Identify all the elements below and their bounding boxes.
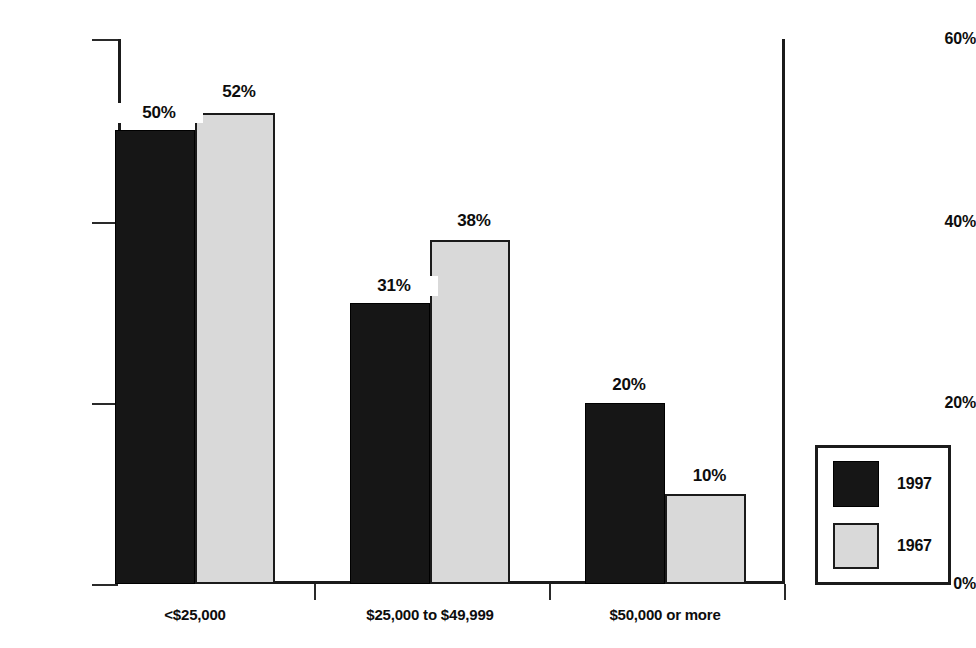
x-axis-label-25000-49999: $25,000 to $49,999 [330, 606, 530, 623]
bar-1967-lt-25000 [195, 113, 275, 584]
bar-value-1997-50000-plus: 20% [585, 375, 673, 395]
bar-1967-50000-plus [665, 494, 746, 584]
legend-swatch-1967 [833, 523, 879, 569]
x-tick-0 [314, 584, 316, 600]
legend: 1997 1967 [815, 445, 951, 585]
scan-text-remnant: · · · · · · · [0, 0, 976, 12]
bar-1997-25000-49999 [350, 303, 430, 584]
y-tick-stub-60 [92, 39, 118, 41]
bar-value-1967-lt-25000: 52% [195, 82, 283, 102]
legend-label-1967: 1967 [897, 537, 932, 555]
bar-chart: · · · · · · · 60% 40% 20% 0% 50% 52% 31%… [0, 0, 976, 648]
y-axis-label-40: 40% [888, 213, 976, 231]
y-axis-label-20: 20% [888, 394, 976, 412]
y-axis-label-60: 60% [888, 30, 976, 48]
bar-1997-50000-plus [585, 403, 665, 584]
legend-item-1967: 1967 [818, 520, 948, 572]
bar-value-1967-50000-plus: 10% [665, 466, 754, 486]
x-tick-2 [784, 584, 786, 600]
bar-value-1997-lt-25000: 50% [115, 103, 203, 123]
x-tick-1 [549, 584, 551, 600]
legend-label-1997: 1997 [897, 475, 932, 493]
legend-item-1997: 1997 [818, 458, 948, 510]
y-tick-stub-0 [92, 584, 118, 586]
bar-1997-lt-25000 [115, 130, 195, 584]
x-axis-label-50000-plus: $50,000 or more [575, 606, 755, 623]
bar-value-1997-25000-49999: 31% [350, 276, 438, 296]
bar-1967-25000-49999 [430, 240, 510, 584]
legend-swatch-1997 [833, 461, 879, 507]
x-axis-label-lt-25000: <$25,000 [115, 606, 275, 623]
bar-value-1967-25000-49999: 38% [430, 211, 518, 231]
scan-remnant-text: · · · · · · · [0, 0, 70, 3]
